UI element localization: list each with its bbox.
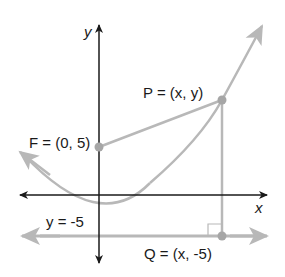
point-q-label: Q = (x, -5) — [144, 245, 212, 262]
parabola-diagram: y x F = (0, 5) P = (x, y) Q = (x, -5) y … — [0, 0, 285, 277]
point-p-label: P = (x, y) — [143, 84, 203, 101]
focus-point — [95, 143, 104, 152]
x-axis-label: x — [254, 199, 263, 216]
y-axis-label: y — [83, 23, 93, 40]
point-q — [218, 232, 227, 241]
focus-label: F = (0, 5) — [29, 134, 90, 151]
directrix-label: y = -5 — [46, 213, 84, 230]
segment-fp — [99, 100, 222, 147]
point-p — [218, 96, 227, 105]
parabola-curve — [20, 26, 262, 203]
